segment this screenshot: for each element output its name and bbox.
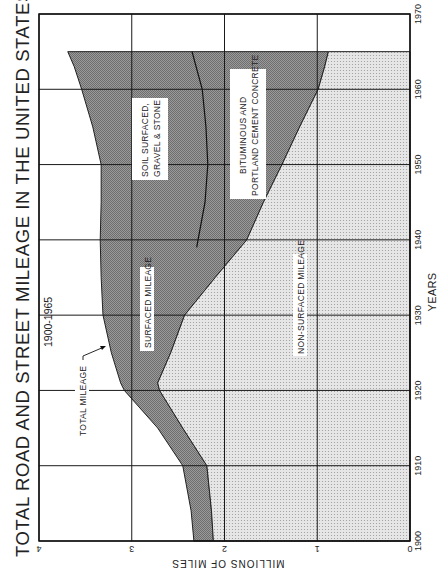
year-tick-1910: 1910 xyxy=(413,456,423,476)
year-tick-1930: 1930 xyxy=(413,305,423,325)
year-tick-1940: 1940 xyxy=(413,230,423,250)
year-tick-1960: 1960 xyxy=(413,79,423,99)
label-surfaced-mileage: SURFACED MILEAGE xyxy=(140,257,154,351)
bituminous-label-line2: PORTLAND CEMENT CONCRETE xyxy=(250,54,260,196)
surfaced-mileage-label: SURFACED MILEAGE xyxy=(143,257,153,348)
label-soil-surfaced: SOIL SURFACED, GRAVEL & STONE xyxy=(132,98,168,180)
miles-tick-4: 4 xyxy=(36,544,41,554)
year-tick-1950: 1950 xyxy=(413,155,423,175)
year-tick-labels: 19001910192019301940195019601970 xyxy=(413,4,423,551)
soil-label-line2: GRAVEL & STONE xyxy=(152,100,162,177)
year-tick-1900: 1900 xyxy=(413,531,423,551)
miles-axis-label: MILLIONS OF MILES xyxy=(171,558,284,569)
road-mileage-chart: 19001910192019301940195019601970 01234 Y… xyxy=(0,0,445,578)
miles-tick-1: 1 xyxy=(315,544,320,554)
soil-label-line1: SOIL SURFACED, xyxy=(140,103,150,177)
total-mileage-arrow xyxy=(83,347,104,360)
non-surfaced-mileage-label: NON-SURFACED MILEAGE xyxy=(296,240,306,354)
label-bituminous: BITUMINOUS AND PORTLAND CEMENT CONCRETE xyxy=(230,54,266,199)
label-total-mileage: TOTAL MILEAGE xyxy=(75,346,106,438)
miles-tick-2: 2 xyxy=(222,544,227,554)
mile-tick-labels: 01234 xyxy=(36,544,412,554)
year-tick-1970: 1970 xyxy=(413,4,423,24)
miles-tick-3: 3 xyxy=(129,544,134,554)
bituminous-label-line1: BITUMINOUS AND xyxy=(238,97,248,174)
total-mileage-label: TOTAL MILEAGE xyxy=(78,366,88,436)
label-non-surfaced-mileage: NON-SURFACED MILEAGE xyxy=(293,240,307,356)
year-tick-1920: 1920 xyxy=(413,380,423,400)
years-axis-label: YEARS xyxy=(426,273,438,312)
miles-tick-0: 0 xyxy=(407,544,412,554)
